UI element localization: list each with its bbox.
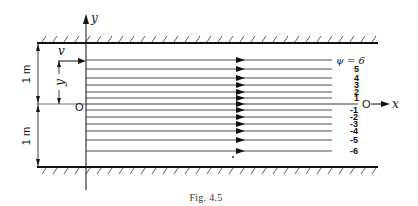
bottom-wall — [37, 167, 378, 174]
streamlines: 54321-1-2-3-4-5-6 — [86, 57, 359, 156]
velocity-label: v — [58, 44, 65, 58]
streamline: -6 — [86, 146, 358, 156]
top-wall — [37, 36, 378, 43]
figure-caption: Fig. 4.5 — [189, 192, 222, 203]
y-dim-label: y — [53, 79, 67, 87]
streamline: -3 — [86, 119, 358, 129]
streamline: -5 — [86, 135, 358, 145]
psi-label: ψ = 6 — [336, 55, 366, 66]
y-dimension: y — [53, 61, 67, 104]
streamline: 3 — [86, 80, 359, 90]
streamline: -2 — [86, 112, 358, 122]
velocity-arrow: v — [58, 44, 86, 64]
lower-height-label: 1 m — [20, 127, 32, 145]
x-axis: O x — [362, 97, 399, 111]
x-axis-label: x — [392, 97, 399, 111]
streamline-label: -6 — [350, 146, 358, 156]
streamline: 5 — [86, 64, 359, 74]
streamline: 1 — [86, 93, 359, 103]
y-axis: y — [83, 11, 98, 190]
streamline-label: -5 — [350, 135, 358, 145]
flow-between-plates-diagram: y 54321-1-2-3-4-5-6 O O x v y 1 m 1 m ψ … — [0, 0, 418, 206]
streamline — [86, 57, 332, 63]
upper-height-label: 1 m — [20, 65, 32, 83]
streamline-label: 1 — [354, 93, 359, 103]
streamline: 2 — [86, 87, 359, 97]
streamline: 4 — [86, 73, 359, 83]
x-origin-label: O — [362, 98, 371, 110]
height-dimensions: 1 m 1 m — [20, 44, 40, 166]
streamline: -1 — [86, 105, 358, 115]
y-axis-label: y — [90, 11, 98, 25]
dot-mark — [232, 156, 234, 158]
streamline: -4 — [86, 126, 358, 136]
streamline — [86, 101, 358, 107]
origin-label: O — [75, 101, 84, 113]
